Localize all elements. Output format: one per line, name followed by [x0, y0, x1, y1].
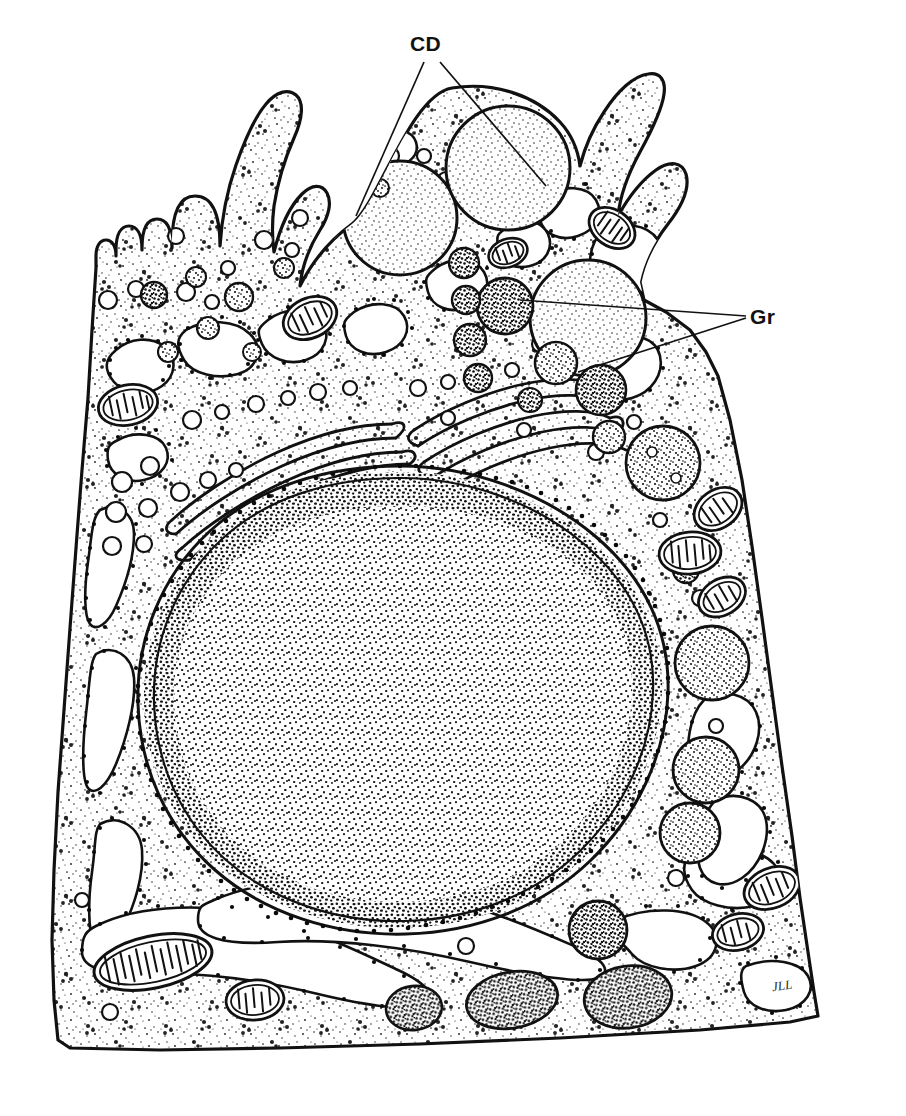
label-cd: CD: [410, 32, 441, 56]
artist-signature: JLL: [771, 977, 793, 995]
cell-ultrastructure-figure: CD Gr JLL: [0, 0, 906, 1116]
label-gr: Gr: [750, 305, 775, 329]
cell-drawing: [0, 0, 906, 1116]
